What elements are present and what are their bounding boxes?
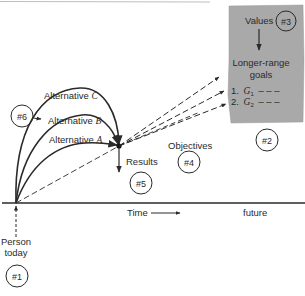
marker-1: #1 bbox=[12, 272, 22, 282]
goals-title-1: Longer-range bbox=[232, 57, 289, 68]
goals-title-2: goals bbox=[250, 69, 273, 80]
objective-arrow-1 bbox=[119, 77, 219, 146]
marker-4: #4 bbox=[184, 158, 194, 168]
marker-5: #5 bbox=[136, 179, 146, 189]
results-label: Results bbox=[126, 156, 158, 167]
future-label: future bbox=[243, 207, 267, 218]
objectives-label: Objectives bbox=[168, 140, 213, 151]
top-rule bbox=[0, 2, 210, 3]
marker-2: #2 bbox=[262, 136, 272, 146]
person-label-2: today bbox=[4, 247, 27, 258]
marker-3: #3 bbox=[281, 17, 291, 27]
goal-diagram: Values #3 Longer-range goals 1. G1 – – –… bbox=[0, 0, 305, 296]
alternative-a-label: Alternative A bbox=[49, 134, 103, 145]
marker-6-leader bbox=[33, 118, 41, 119]
values-label: Values bbox=[245, 15, 274, 26]
marker-6: #6 bbox=[17, 112, 27, 122]
alternative-b-label: Alternative B bbox=[48, 115, 102, 126]
alternative-c-label: Alternative C bbox=[44, 90, 99, 101]
alternative-b-curve bbox=[16, 115, 118, 203]
objective-arrow-2 bbox=[119, 91, 224, 146]
alternative-c-curve bbox=[16, 88, 119, 203]
time-label: Time bbox=[127, 207, 148, 218]
person-label-1: Person bbox=[1, 236, 31, 247]
